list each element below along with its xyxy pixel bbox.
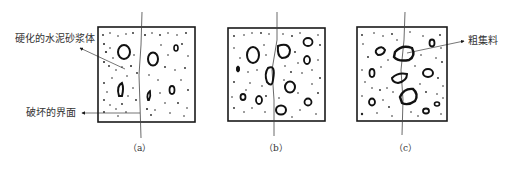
aggregate — [423, 69, 433, 77]
aggregate — [278, 45, 290, 58]
panel-a — [80, 12, 195, 138]
aggregate — [241, 94, 246, 100]
aggregate — [430, 40, 435, 47]
aggregate — [148, 53, 158, 66]
aggregate — [304, 56, 310, 64]
caption-c: （c） — [394, 141, 417, 154]
aggregate — [394, 47, 413, 61]
aggregate — [118, 83, 123, 96]
aggregate — [392, 74, 407, 84]
caption-a: （a） — [128, 141, 151, 154]
diagram-canvas — [0, 0, 511, 169]
aggregate — [376, 47, 385, 55]
aggregate — [435, 102, 440, 106]
label-coarse-aggregate: 粗集料 — [468, 35, 498, 47]
fracture-line-a — [139, 12, 142, 138]
leader-aggregate — [407, 41, 464, 53]
aggregate — [147, 91, 150, 100]
aggregate — [174, 45, 178, 51]
specimen-box-a — [98, 27, 195, 122]
aggregate — [369, 99, 375, 106]
label-failure-interface: 破坏的界面 — [26, 107, 76, 119]
aggregate — [285, 82, 295, 93]
label-hardened-mortar: 硬化的水泥砂浆体 — [15, 33, 95, 45]
aggregate — [170, 86, 175, 94]
aggregate — [370, 69, 375, 77]
panel-b — [228, 12, 325, 136]
aggregate — [118, 45, 130, 59]
aggregate — [276, 106, 286, 115]
caption-b: （b） — [264, 141, 288, 154]
aggregate — [304, 38, 313, 46]
aggregate — [247, 47, 259, 63]
aggregate — [423, 109, 429, 114]
panel-c — [357, 12, 464, 135]
aggregate — [237, 66, 240, 72]
aggregate — [256, 96, 262, 104]
aggregate — [305, 99, 312, 106]
